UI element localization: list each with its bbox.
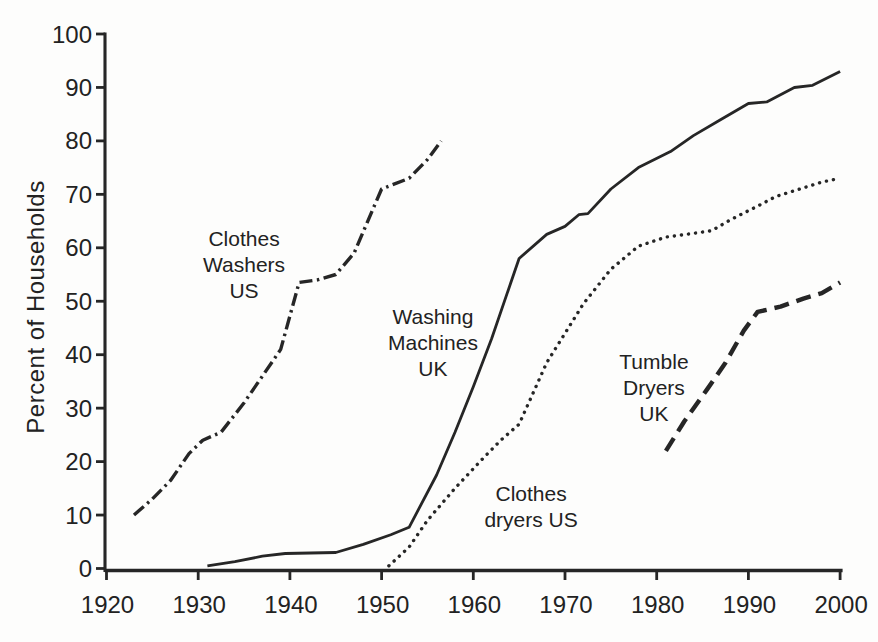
y-tick-label-0: 0: [79, 555, 92, 582]
annotation-clothes-dryers-us-line-1: Clothes: [495, 482, 566, 505]
y-tick-label-70: 70: [65, 181, 92, 208]
y-tick-label-100: 100: [52, 21, 92, 48]
annotation-washing-machines-uk-line-1: Washing: [392, 305, 473, 328]
annotation-clothes-dryers-us-line-2: dryers US: [484, 508, 577, 531]
y-tick-label-80: 80: [65, 127, 92, 154]
annotation-washing-machines-uk-line-2: Machines: [388, 331, 478, 354]
x-tick-label-1920: 1920: [81, 591, 134, 618]
scanned-line-chart-page: 0102030405060708090100192019301940195019…: [0, 0, 878, 642]
x-tick-label-1950: 1950: [356, 591, 409, 618]
annotation-clothes-washers-us-line-2: Washers: [203, 253, 285, 276]
series-line-clothes-dryers-us: [389, 178, 840, 566]
annotation-tumble-dryers-uk-line-3: UK: [639, 402, 668, 425]
x-tick-label-1940: 1940: [264, 591, 317, 618]
y-axis-title: Percent of Households: [20, 157, 52, 457]
annotation-clothes-washers-us-line-1: Clothes: [208, 227, 279, 250]
x-tick-label-1970: 1970: [539, 591, 592, 618]
chart-canvas: 0102030405060708090100192019301940195019…: [0, 0, 878, 642]
annotation-tumble-dryers-uk-line-2: Dryers: [623, 376, 685, 399]
y-tick-label-30: 30: [65, 395, 92, 422]
y-tick-label-40: 40: [65, 341, 92, 368]
annotation-tumble-dryers-uk-line-1: Tumble: [619, 350, 688, 373]
x-tick-label-1980: 1980: [631, 591, 684, 618]
y-tick-label-20: 20: [65, 448, 92, 475]
y-tick-label-60: 60: [65, 234, 92, 261]
x-tick-label-2000: 2000: [814, 591, 867, 618]
y-tick-label-10: 10: [65, 502, 92, 529]
y-tick-label-90: 90: [65, 74, 92, 101]
series-line-tumble-dryers-uk: [666, 283, 840, 451]
x-tick-label-1990: 1990: [723, 591, 776, 618]
annotation-washing-machines-uk-line-3: UK: [418, 357, 447, 380]
x-tick-label-1960: 1960: [448, 591, 501, 618]
x-tick-label-1930: 1930: [173, 591, 226, 618]
annotation-clothes-washers-us-line-3: US: [229, 279, 258, 302]
y-tick-label-50: 50: [65, 288, 92, 315]
